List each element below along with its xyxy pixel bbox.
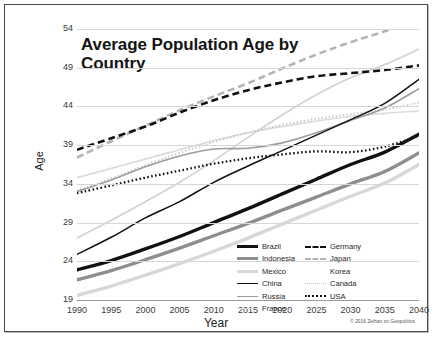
copyright-credit: © 2016 Zeihan on Geopolitics: [350, 319, 415, 324]
legend-swatch-russia-icon: [237, 296, 258, 297]
legend-label: China: [262, 279, 282, 288]
y-axis-tick-label: 44: [43, 100, 73, 110]
legend-label: Russia: [262, 292, 285, 301]
legend-swatch-china-icon: [237, 283, 258, 284]
legend-swatch-canada-icon: [305, 283, 326, 284]
legend-item-germany[interactable]: Germany: [305, 241, 361, 252]
legend-item-china[interactable]: China: [237, 278, 295, 289]
y-axis-tick-label: 54: [43, 23, 73, 33]
legend-item-canada[interactable]: Canada: [305, 278, 361, 289]
gridline: [77, 29, 419, 30]
legend-item-russia[interactable]: Russia: [237, 291, 295, 302]
legend-item-brazil[interactable]: Brazil: [237, 241, 295, 252]
legend-label: Germany: [330, 242, 361, 251]
gridline: [77, 106, 419, 107]
legend-swatch-korea-icon: [305, 271, 326, 272]
legend-item-mexico[interactable]: Mexico: [237, 266, 295, 277]
legend-swatch-indonesia-icon: [237, 257, 258, 260]
chart-frame: Average Population Age by Country Age Ye…: [4, 4, 428, 332]
legend-label: Japan: [330, 254, 351, 263]
legend-item-usa[interactable]: USA: [305, 291, 361, 302]
legend-item-japan[interactable]: Japan: [305, 253, 361, 264]
gridline: [77, 184, 419, 185]
y-axis-tick-label: 29: [43, 217, 73, 227]
legend-swatch-brazil-icon: [237, 245, 258, 248]
legend-label: Mexico: [262, 267, 286, 276]
series-line-russia: [77, 89, 419, 192]
legend-item-france[interactable]: France: [237, 303, 295, 314]
x-axis-tick-label: 2040: [399, 305, 439, 315]
legend-label: USA: [330, 292, 346, 301]
legend-label: France: [262, 304, 286, 313]
y-axis-tick-label: 39: [43, 139, 73, 149]
legend-swatch-france-icon: [237, 308, 258, 309]
legend-swatch-germany-icon: [305, 246, 326, 248]
y-axis-tick-label: 24: [43, 255, 73, 265]
y-axis-tick-label: 34: [43, 178, 73, 188]
y-axis-tick-label: 49: [43, 62, 73, 72]
y-axis-tick-label: 19: [43, 294, 73, 304]
legend-swatch-mexico-icon: [237, 270, 258, 273]
gridline: [77, 68, 419, 69]
legend-item-indonesia[interactable]: Indonesia: [237, 253, 295, 264]
chart-legend: BrazilIndonesiaMexicoChinaRussiaFrance G…: [237, 241, 361, 314]
legend-label: Canada: [330, 279, 357, 288]
gridline: [77, 145, 419, 146]
legend-swatch-japan-icon: [305, 258, 326, 260]
gridline: [77, 223, 419, 224]
legend-item-korea[interactable]: Korea: [305, 266, 361, 277]
y-axis-label: Age: [33, 151, 45, 171]
legend-swatch-usa-icon: [305, 295, 326, 297]
legend-column-right: GermanyJapanKoreaCanadaUSA: [305, 241, 361, 314]
legend-column-left: BrazilIndonesiaMexicoChinaRussiaFrance: [237, 241, 295, 314]
legend-label: Indonesia: [262, 254, 295, 263]
legend-label: Brazil: [262, 242, 281, 251]
legend-label: Korea: [330, 267, 350, 276]
